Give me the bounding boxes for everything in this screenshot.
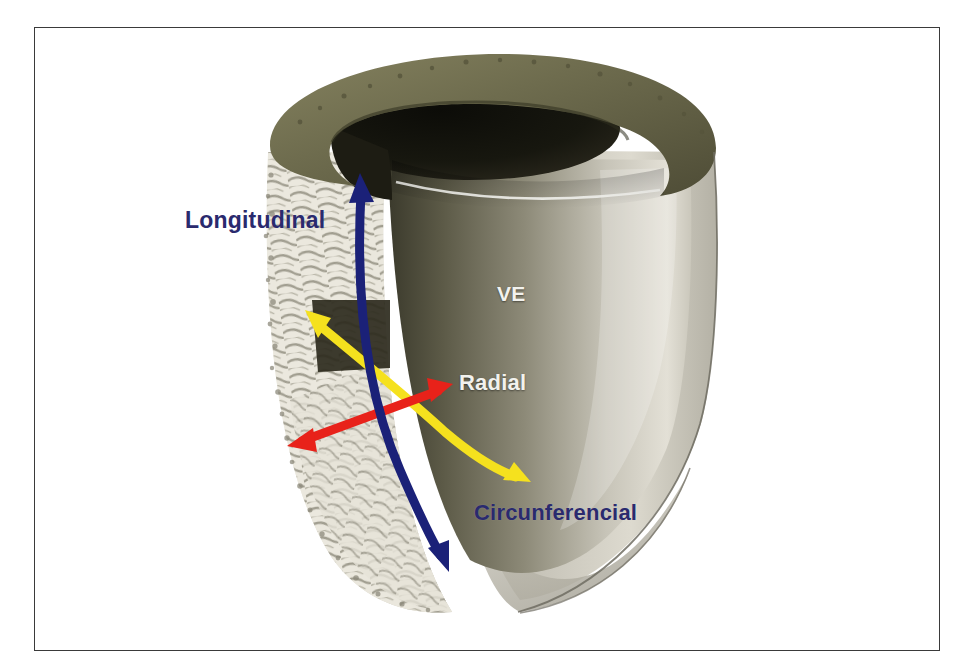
cut-notch-upper — [312, 300, 390, 372]
figure-root: Longitudinal Radial Circunferencial VE — [0, 0, 969, 670]
label-radial: Radial — [459, 370, 526, 396]
label-longitudinal: Longitudinal — [185, 207, 325, 234]
ventricle-illustration — [0, 0, 969, 670]
label-left-ventricle-chamber: VE — [497, 282, 525, 306]
label-circunferencial: Circunferencial — [474, 500, 637, 526]
